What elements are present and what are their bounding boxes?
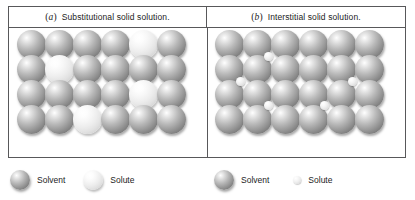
interstitial-solute-sphere	[264, 52, 273, 61]
legend-label-solvent-b: Solvent	[241, 175, 269, 185]
interstitial-solute-sphere	[264, 101, 273, 110]
small-light-sphere-icon	[293, 176, 301, 184]
panel-a-caption: Substitutional solid solution.	[62, 12, 170, 22]
panel-a-header: (a) Substitutional solid solution.	[9, 7, 207, 27]
panel-b-caption: Interstitial solid solution.	[268, 12, 361, 22]
solute-sphere	[73, 105, 102, 134]
panel-b-sphere-stage	[207, 28, 405, 158]
legend-entry-solvent-a: Solvent	[10, 170, 65, 190]
figure-frame: (a) Substitutional solid solution. (b) I…	[8, 6, 406, 158]
interstitial-solute-sphere	[320, 101, 329, 110]
solvent-sphere	[157, 105, 186, 134]
legend-entry-solute-a: Solute	[83, 170, 134, 190]
solvent-sphere	[129, 105, 158, 134]
solvent-sphere	[327, 105, 356, 134]
solvent-sphere	[17, 105, 46, 134]
large-light-sphere-icon	[83, 170, 103, 190]
panel-a-sphere-stage	[9, 28, 207, 158]
legend-group-panel-b: Solvent Solute	[214, 160, 350, 200]
legend-entry-solute-b: Solute	[287, 175, 332, 185]
figure-root: (a) Substitutional solid solution. (b) I…	[0, 0, 415, 200]
panel-a-lattice	[9, 28, 207, 158]
solvent-sphere	[271, 105, 300, 134]
large-dark-sphere-icon	[214, 170, 234, 190]
panel-b-lattice	[207, 28, 405, 158]
large-dark-sphere-icon	[10, 170, 30, 190]
legend-bar: Solvent Solute Solvent Solute	[0, 160, 415, 200]
solvent-sphere	[101, 105, 130, 134]
panel-header-row: (a) Substitutional solid solution. (b) I…	[9, 7, 405, 28]
panel-b-paren-close: )	[259, 12, 262, 22]
panel-a-marker: (a)	[45, 12, 56, 22]
legend-group-panel-a: Solvent Solute	[10, 160, 152, 200]
legend-label-solute-a: Solute	[110, 175, 134, 185]
legend-entry-solvent-b: Solvent	[214, 170, 269, 190]
interstitial-solute-sphere	[348, 77, 357, 86]
panel-b-marker: (b)	[251, 12, 262, 22]
interstitial-solute-sphere	[236, 77, 245, 86]
panel-a-paren-close: )	[53, 12, 56, 22]
legend-label-solute-b: Solute	[308, 175, 332, 185]
solvent-sphere	[215, 105, 244, 134]
legend-label-solvent-a: Solvent	[37, 175, 65, 185]
panel-b-header: (b) Interstitial solid solution.	[207, 7, 405, 27]
solvent-sphere	[45, 105, 74, 134]
solvent-sphere	[355, 105, 384, 134]
